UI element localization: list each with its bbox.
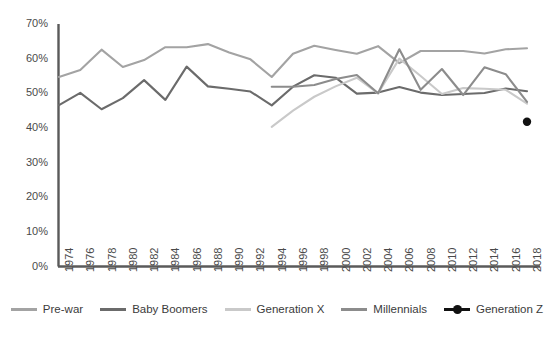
legend-swatch-icon <box>11 308 37 311</box>
legend-label: Baby Boomers <box>132 303 207 315</box>
x-tick-label: 2000 <box>341 248 352 272</box>
legend-item-baby-boomers[interactable]: Baby Boomers <box>100 303 207 315</box>
plot-area <box>0 0 554 341</box>
x-tick-label: 2016 <box>511 248 522 272</box>
line-chart: 0%10%20%30%40%50%60%70% 1974197619781980… <box>0 0 554 341</box>
legend-swatch-icon <box>444 308 470 311</box>
x-tick-label: 1992 <box>255 248 266 272</box>
y-tick-label: 0% <box>8 261 48 272</box>
legend-item-generation-x[interactable]: Generation X <box>225 303 325 315</box>
x-tick-label: 1996 <box>298 248 309 272</box>
x-tick-label: 1982 <box>149 248 160 272</box>
legend-swatch-icon <box>341 308 367 311</box>
x-tick-label: 2006 <box>404 248 415 272</box>
axes <box>58 24 540 267</box>
x-tick-label: 2012 <box>468 248 479 272</box>
x-tick-label: 2014 <box>489 248 500 272</box>
x-tick-label: 2008 <box>426 248 437 272</box>
x-tick-label: 1984 <box>170 248 181 272</box>
y-tick-label: 40% <box>8 122 48 133</box>
legend-item-generation-z[interactable]: Generation Z <box>444 303 543 315</box>
legend-label: Millennials <box>373 303 427 315</box>
x-tick-label: 1980 <box>128 248 139 272</box>
legend-swatch-icon <box>100 308 126 311</box>
chart-legend: Pre-warBaby BoomersGeneration XMillennia… <box>0 303 554 315</box>
x-tick-label: 1978 <box>107 248 118 272</box>
x-tick-label: 1974 <box>64 248 75 272</box>
x-tick-label: 2002 <box>362 248 373 272</box>
legend-label: Generation Z <box>476 303 543 315</box>
x-tick-label: 2018 <box>532 248 543 272</box>
legend-item-millennials[interactable]: Millennials <box>341 303 427 315</box>
x-tick-label: 1994 <box>277 248 288 272</box>
legend-item-pre-war[interactable]: Pre-war <box>11 303 83 315</box>
y-tick-label: 30% <box>8 157 48 168</box>
y-tick-label: 10% <box>8 226 48 237</box>
x-tick-label: 1986 <box>192 248 203 272</box>
x-tick-label: 1998 <box>319 248 330 272</box>
legend-label: Generation X <box>257 303 325 315</box>
x-tick-label: 2010 <box>447 248 458 272</box>
y-tick-label: 70% <box>8 18 48 29</box>
series-point-generation-z <box>523 117 531 125</box>
x-tick-label: 2004 <box>383 248 394 272</box>
x-tick-label: 1990 <box>234 248 245 272</box>
legend-label: Pre-war <box>43 303 83 315</box>
series-lines <box>59 44 531 127</box>
x-tick-label: 1988 <box>213 248 224 272</box>
series-line-millennials <box>272 49 527 102</box>
y-tick-label: 50% <box>8 87 48 98</box>
legend-swatch-icon <box>225 308 251 311</box>
x-tick-label: 1976 <box>85 248 96 272</box>
series-line-pre-war <box>59 44 527 77</box>
y-tick-label: 20% <box>8 191 48 202</box>
y-tick-label: 60% <box>8 53 48 64</box>
